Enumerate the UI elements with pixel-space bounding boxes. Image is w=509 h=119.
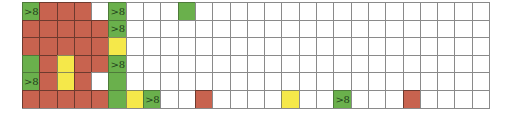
empty-cell [454, 90, 471, 108]
green-cell: >8 [108, 55, 125, 73]
empty-cell [316, 55, 333, 73]
empty-cell [126, 37, 143, 55]
empty-cell [333, 2, 350, 20]
red-cell [39, 2, 56, 20]
empty-cell [126, 72, 143, 90]
empty-cell [91, 2, 108, 20]
red-cell [57, 90, 74, 108]
empty-cell [281, 20, 298, 38]
empty-cell [264, 72, 281, 90]
empty-cell [472, 72, 489, 90]
red-cell [91, 20, 108, 38]
empty-cell [143, 2, 160, 20]
empty-cell [316, 2, 333, 20]
empty-cell [299, 55, 316, 73]
empty-cell [247, 90, 264, 108]
empty-cell [230, 90, 247, 108]
red-cell [39, 90, 56, 108]
empty-cell [247, 20, 264, 38]
empty-cell [351, 90, 368, 108]
empty-cell [160, 2, 177, 20]
empty-cell [126, 2, 143, 20]
green-cell [108, 90, 125, 108]
empty-cell [420, 55, 437, 73]
empty-cell [264, 37, 281, 55]
empty-cell [368, 90, 385, 108]
empty-cell [437, 37, 454, 55]
empty-cell [385, 55, 402, 73]
empty-cell [143, 72, 160, 90]
empty-cell [420, 90, 437, 108]
empty-cell [264, 20, 281, 38]
empty-cell [333, 37, 350, 55]
empty-cell [403, 37, 420, 55]
red-cell [57, 20, 74, 38]
empty-cell [351, 37, 368, 55]
empty-cell [143, 55, 160, 73]
empty-cell [212, 72, 229, 90]
empty-cell [281, 72, 298, 90]
empty-cell [247, 2, 264, 20]
empty-cell [454, 72, 471, 90]
red-cell [74, 37, 91, 55]
empty-cell [230, 55, 247, 73]
empty-cell [351, 72, 368, 90]
yellow-cell [57, 72, 74, 90]
red-cell [91, 55, 108, 73]
green-cell: >8 [108, 2, 125, 20]
green-cell [22, 55, 39, 73]
red-cell [74, 72, 91, 90]
empty-cell [420, 20, 437, 38]
red-cell [57, 2, 74, 20]
empty-cell [472, 20, 489, 38]
empty-cell [454, 20, 471, 38]
empty-cell [178, 90, 195, 108]
empty-cell [247, 55, 264, 73]
empty-cell [437, 20, 454, 38]
empty-cell [437, 2, 454, 20]
empty-cell [403, 2, 420, 20]
empty-cell [195, 55, 212, 73]
red-cell [74, 55, 91, 73]
red-cell [74, 2, 91, 20]
empty-cell [368, 2, 385, 20]
empty-cell [91, 72, 108, 90]
empty-cell [420, 72, 437, 90]
red-cell [22, 90, 39, 108]
empty-cell [126, 55, 143, 73]
empty-cell [472, 90, 489, 108]
empty-cell [420, 2, 437, 20]
empty-cell [212, 90, 229, 108]
empty-cell [212, 55, 229, 73]
empty-cell [281, 2, 298, 20]
empty-cell [333, 55, 350, 73]
green-cell: >8 [143, 90, 160, 108]
empty-cell [299, 72, 316, 90]
red-cell [91, 37, 108, 55]
empty-cell [403, 55, 420, 73]
empty-cell [143, 37, 160, 55]
empty-cell [299, 90, 316, 108]
empty-cell [333, 20, 350, 38]
empty-cell [472, 37, 489, 55]
empty-cell [385, 72, 402, 90]
empty-cell [351, 2, 368, 20]
empty-cell [247, 72, 264, 90]
red-cell [39, 37, 56, 55]
empty-cell [281, 55, 298, 73]
empty-cell [230, 20, 247, 38]
green-cell: >8 [22, 2, 39, 20]
empty-cell [437, 55, 454, 73]
empty-cell [368, 37, 385, 55]
empty-cell [368, 72, 385, 90]
empty-cell [299, 20, 316, 38]
empty-cell [316, 90, 333, 108]
red-cell [195, 90, 212, 108]
empty-cell [351, 55, 368, 73]
green-cell [108, 72, 125, 90]
empty-cell [368, 55, 385, 73]
empty-cell [472, 2, 489, 20]
red-cell [74, 20, 91, 38]
red-cell [57, 37, 74, 55]
empty-cell [299, 2, 316, 20]
